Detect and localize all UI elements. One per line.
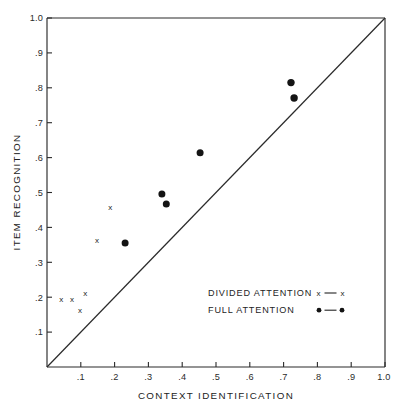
x-tick-label: .8 — [313, 372, 321, 382]
x-tick-label: 1.0 — [377, 372, 390, 382]
data-point-marker-dot — [290, 94, 297, 101]
legend-marker-x-left: x — [317, 289, 321, 298]
data-point-marker-x: x — [70, 295, 74, 304]
y-tick-label: .8 — [35, 83, 43, 93]
series-divided-attention: x x x x x x — [59, 203, 112, 315]
data-point-marker-x: x — [95, 236, 99, 245]
x-tick-label: .9 — [347, 372, 355, 382]
y-axis-title: ITEM RECOGNITION — [11, 134, 22, 251]
legend: DIVIDED ATTENTION x x FULL ATTENTION — [208, 288, 345, 315]
y-tick-label: .5 — [35, 188, 43, 198]
legend-row-divided-attention: DIVIDED ATTENTION x x — [208, 288, 345, 298]
y-tick-label: .3 — [35, 258, 43, 268]
data-point-marker-x: x — [108, 203, 112, 212]
data-point-marker-x: x — [59, 295, 63, 304]
data-point-marker-x: x — [83, 289, 87, 298]
y-tick-label: .6 — [35, 153, 43, 163]
y-tick-label: .9 — [35, 48, 43, 58]
y-tick-label: .2 — [35, 293, 43, 303]
legend-label-full-attention: FULL ATTENTION — [208, 305, 295, 315]
x-tick-label: .1 — [77, 372, 85, 382]
x-tick-label: .7 — [280, 372, 288, 382]
x-tick-label: .6 — [246, 372, 254, 382]
x-axis-title: CONTEXT IDENTIFICATION — [138, 390, 294, 401]
x-tick-label: .2 — [111, 372, 119, 382]
data-point-marker-x: x — [78, 306, 82, 315]
legend-label-divided-attention: DIVIDED ATTENTION — [208, 288, 312, 298]
data-point-marker-dot — [287, 79, 294, 86]
y-tick-label: .4 — [35, 223, 43, 233]
series-full-attention — [122, 79, 298, 247]
data-point-marker-dot — [163, 201, 170, 208]
legend-marker-dot-right — [340, 308, 345, 313]
data-point-marker-dot — [158, 191, 165, 198]
y-tick-label: .7 — [35, 118, 43, 128]
data-point-marker-dot — [197, 149, 204, 156]
legend-row-full-attention: FULL ATTENTION — [208, 305, 344, 315]
x-tick-label: .3 — [144, 372, 152, 382]
data-point-marker-dot — [122, 240, 129, 247]
x-axis-ticks: .1 .2 .3 .4 .5 .6 .7 .8 .9 1.0 — [77, 362, 391, 382]
x-tick-label: .5 — [212, 372, 220, 382]
legend-marker-dot-left — [317, 308, 322, 313]
plot-canvas: 1.0 .9 .8 .7 .6 .5 .4 .3 .2 .1 .1 .2 — [0, 0, 401, 410]
scatter-plot-figure: 1.0 .9 .8 .7 .6 .5 .4 .3 .2 .1 .1 .2 — [0, 0, 401, 410]
x-tick-label: .4 — [178, 372, 186, 382]
y-tick-label: 1.0 — [30, 13, 43, 23]
y-axis-ticks: 1.0 .9 .8 .7 .6 .5 .4 .3 .2 .1 — [30, 13, 52, 337]
y-tick-label: .1 — [35, 327, 43, 337]
legend-marker-x-right: x — [341, 289, 345, 298]
